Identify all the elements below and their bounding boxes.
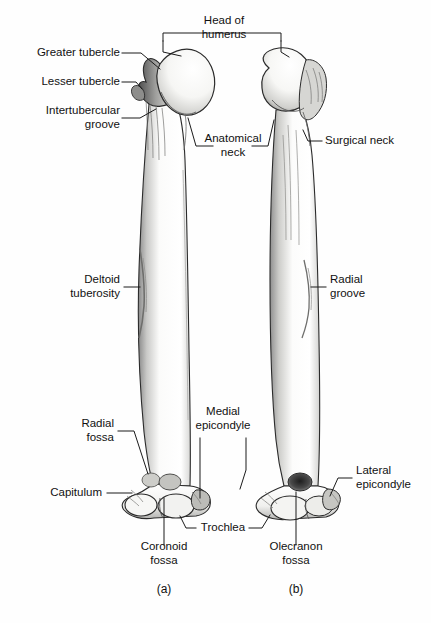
label-deltoid-tuberosity: Deltoid tuberosity [18, 273, 120, 300]
trochlea-shape-b [271, 496, 309, 520]
panel-label-a: (a) [144, 582, 184, 596]
trochlea-shape-a [158, 494, 194, 518]
radial-fossa-shape [142, 473, 160, 487]
shaft-posterior [270, 106, 320, 486]
leader-radial-fossa [118, 431, 148, 474]
humerus-anterior-bone [122, 49, 214, 518]
label-olecranon-fossa: Olecranon fossa [254, 540, 338, 567]
coronoid-fossa-shape [159, 474, 181, 490]
label-radial-fossa: Radial fossa [22, 417, 114, 444]
label-lesser-tubercle: Lesser tubercle [4, 75, 120, 89]
label-coronoid-fossa: Coronoid fossa [122, 540, 206, 567]
leader-medial-epicondyle-b [240, 438, 246, 489]
label-intertubercular-groove: Intertubercular groove [4, 104, 120, 131]
label-anatomical-neck: Anatomical neck [186, 132, 280, 159]
label-radial-groove: Radial groove [330, 273, 426, 300]
medial-epicondyle-shape [191, 490, 210, 510]
label-head-of-humerus: Head of humerus [166, 14, 282, 41]
label-greater-tubercle: Greater tubercle [4, 46, 120, 60]
label-surgical-neck: Surgical neck [325, 134, 429, 148]
label-medial-epicondyle: Medial epicondyle [176, 405, 270, 432]
humerus-posterior-bone [256, 48, 340, 520]
label-lateral-epicondyle: Lateral epicondyle [356, 464, 430, 491]
capitulum-shape [125, 494, 157, 516]
panel-label-b: (b) [276, 582, 316, 596]
olecranon-fossa-shape [288, 473, 312, 491]
label-trochlea: Trochlea [200, 521, 246, 535]
label-capitulum: Capitulum [10, 486, 102, 500]
humerus-figure: Greater tubercle Lesser tubercle Intertu… [0, 0, 431, 623]
